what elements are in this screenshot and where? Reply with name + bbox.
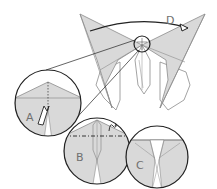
step-label-a: A — [26, 111, 34, 124]
origami-diagram: D A — [0, 0, 217, 189]
detail-circle-c: C — [124, 124, 194, 189]
step-label-c: C — [136, 159, 144, 172]
diagram-svg: D A — [0, 0, 217, 189]
step-label-d: D — [166, 14, 174, 27]
step-label-b: B — [76, 151, 84, 164]
